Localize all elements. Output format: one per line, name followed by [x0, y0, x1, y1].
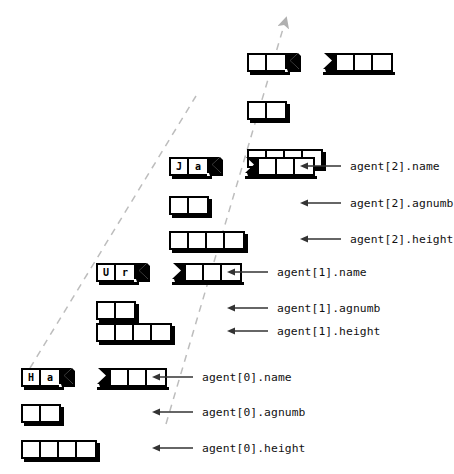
record-2-height-row — [169, 231, 245, 250]
record-2-agnumb-row — [169, 196, 209, 215]
byte-cell — [267, 55, 285, 70]
byte-cell — [259, 159, 277, 174]
name-head-cells — [247, 53, 285, 72]
byte-cell — [225, 233, 243, 248]
byte-cell — [77, 442, 95, 457]
height-cells — [96, 323, 172, 342]
label-agent-1-agnumb: agent[1].agnumb — [277, 302, 381, 315]
callout-arrow-0-height — [152, 441, 194, 455]
byte-cell — [116, 303, 134, 318]
name-head-segment: H a — [21, 368, 75, 391]
byte-cell — [186, 265, 204, 280]
byte-cell — [116, 325, 134, 340]
byte-cell — [152, 325, 170, 340]
byte-cell — [249, 55, 267, 70]
byte-cell: H — [23, 370, 41, 385]
agnumb-cells — [169, 196, 209, 215]
record-0-agnumb-row — [21, 404, 61, 423]
byte-cell — [23, 406, 41, 421]
label-agent-1-height: agent[1].height — [277, 325, 381, 338]
agnumb-cells — [96, 301, 136, 320]
label-agent-0-agnumb: agent[0].agnumb — [202, 406, 306, 419]
label-agent-0-name: agent[0].name — [202, 371, 292, 384]
callout-arrow-0-agnumb — [152, 405, 194, 419]
byte-cell: r — [116, 265, 134, 280]
byte-cell: U — [98, 265, 116, 280]
record-0-name-row: H a — [21, 368, 167, 391]
agnumb-cells — [21, 404, 61, 423]
height-cells — [21, 440, 97, 459]
label-agent-2-agnumb: agent[2].agnumb — [350, 197, 454, 210]
byte-cell — [373, 55, 391, 70]
record-1-height-row — [96, 323, 172, 342]
record-partial-agnumb-row — [247, 101, 287, 120]
byte-cell: J — [171, 159, 189, 174]
name-head-segment — [247, 53, 301, 76]
byte-cell — [207, 233, 225, 248]
agnumb-cells — [247, 101, 287, 120]
record-partial-name-row — [247, 53, 393, 76]
name-tail-cells — [337, 53, 393, 72]
name-head-cells: U r — [96, 263, 134, 282]
byte-cell — [59, 442, 77, 457]
byte-cell — [98, 303, 116, 318]
byte-cell — [189, 198, 207, 213]
callout-arrow-1-agnumb — [227, 301, 269, 315]
byte-cell — [171, 233, 189, 248]
label-agent-1-name: agent[1].name — [277, 266, 367, 279]
height-cells — [169, 231, 245, 250]
label-agent-2-height: agent[2].height — [350, 233, 454, 246]
name-head-cells: H a — [21, 368, 59, 387]
array-progression-line-right — [166, 22, 285, 424]
byte-cell — [129, 370, 147, 385]
name-head-cells: J a — [169, 157, 207, 176]
byte-cell — [98, 325, 116, 340]
byte-cell — [41, 442, 59, 457]
byte-cell — [267, 103, 285, 118]
byte-cell — [41, 406, 59, 421]
label-agent-2-name: agent[2].name — [350, 160, 440, 173]
byte-cell — [277, 159, 295, 174]
byte-cell — [189, 233, 207, 248]
byte-cell — [204, 265, 222, 280]
name-head-segment: J a — [169, 157, 223, 180]
byte-cell — [111, 370, 129, 385]
name-tail-segment — [321, 53, 393, 76]
byte-cell: a — [41, 370, 59, 385]
byte-cell — [337, 55, 355, 70]
byte-cell — [134, 325, 152, 340]
name-head-segment: U r — [96, 263, 150, 286]
byte-cell — [355, 55, 373, 70]
callout-arrow-2-height — [300, 232, 342, 246]
record-1-name-row: U r — [96, 263, 242, 286]
byte-cell — [171, 198, 189, 213]
callout-arrow-2-name — [300, 159, 342, 173]
record-1-agnumb-row — [96, 301, 136, 320]
label-agent-0-height: agent[0].height — [202, 442, 306, 455]
byte-cell — [249, 103, 267, 118]
byte-cell: a — [189, 159, 207, 174]
byte-cell — [23, 442, 41, 457]
callout-arrow-1-height — [227, 324, 269, 338]
record-2-name-row: J a — [169, 157, 315, 180]
record-0-height-row — [21, 440, 97, 459]
callout-arrow-0-name — [152, 370, 194, 384]
callout-arrow-2-agnumb — [300, 196, 342, 210]
callout-arrow-1-name — [227, 265, 269, 279]
